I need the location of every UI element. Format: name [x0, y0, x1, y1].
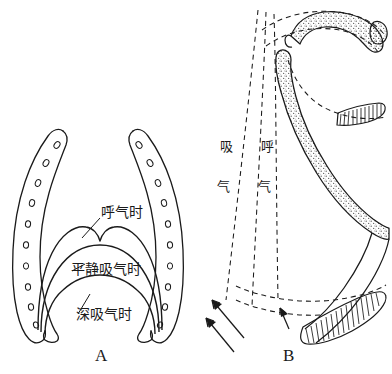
label-expiration-char2: 气: [258, 180, 274, 193]
label-inspiration-char2: 气: [217, 180, 233, 193]
label-quiet-inspiration: 平静吸气时: [71, 262, 141, 276]
label-deep-inspiration: 深吸气时: [76, 307, 132, 321]
label-expiration: 呼气时: [101, 205, 143, 219]
label-expiration-vertical: 呼 气: [261, 140, 274, 193]
figure-canvas: [0, 0, 392, 374]
label-expiration-char1: 呼: [261, 140, 274, 153]
panel-b-upper-costal-cartilage: [337, 103, 385, 125]
label-inspiration-char1: 吸: [220, 140, 233, 153]
label-inspiration-vertical: 吸 气: [220, 140, 233, 193]
diaphragm-curve-deep-inspiration: [45, 275, 155, 334]
panel-letter-b: B: [283, 347, 294, 364]
panel-a-left-rib-column: [13, 129, 67, 342]
panel-letter-a: A: [95, 347, 107, 364]
anatomy-figure: 呼气时 平静吸气时 深吸气时 吸 气 呼 气 A B: [0, 0, 392, 374]
panel-b-movement-arrows: [206, 300, 289, 352]
panel-b-lower-rib: [276, 50, 389, 239]
panel-b-group: [206, 5, 392, 352]
